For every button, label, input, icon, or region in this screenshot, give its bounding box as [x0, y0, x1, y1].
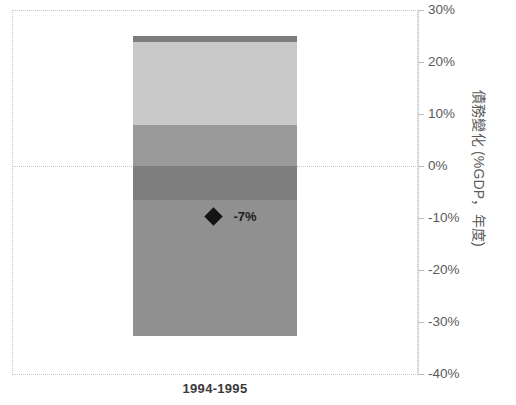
tick-label-20: 20% [428, 55, 455, 69]
tick-mark-neg40 [418, 374, 424, 375]
tick-label-neg10: -10% [428, 211, 460, 225]
diamond-icon [204, 208, 222, 226]
tick-label-neg40: -40% [428, 367, 460, 381]
y-axis-spine [418, 10, 419, 375]
y-axis-title: 債務變化 (%GDP，年度) [470, 90, 490, 280]
tick-mark-10 [418, 114, 424, 115]
net-change-label: -7% [233, 209, 256, 224]
tick-mark-neg20 [418, 270, 424, 271]
tick-label-neg30: -30% [428, 315, 460, 329]
chart-container: -7% 30% 20% 10% 0% -10% -20% -30% -40% 債… [0, 0, 516, 405]
tick-label-30: 30% [428, 3, 455, 17]
tick-label-0: 0% [428, 159, 448, 173]
tick-mark-0 [418, 166, 424, 167]
tick-mark-neg30 [418, 322, 424, 323]
bar-segment-medium [133, 125, 297, 166]
tick-label-neg20: -20% [428, 263, 460, 277]
bar-segment-dark [133, 166, 297, 200]
tick-mark-neg10 [418, 218, 424, 219]
tick-label-10: 10% [428, 107, 455, 121]
bar-segment-light [133, 42, 297, 125]
category-label-1994-1995: 1994-1995 [133, 381, 297, 396]
tick-mark-20 [418, 62, 424, 63]
net-change-marker: -7% [207, 207, 257, 225]
tick-mark-30 [418, 10, 424, 11]
